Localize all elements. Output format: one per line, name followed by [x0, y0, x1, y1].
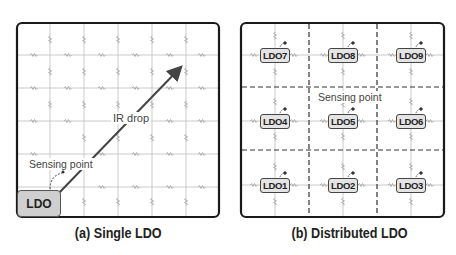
- sensing-point-label-a: Sensing point: [28, 158, 94, 170]
- ir-drop-arrow: [57, 68, 180, 195]
- ldo-6: LDO6: [396, 114, 426, 129]
- ldo-3: LDO3: [396, 178, 426, 193]
- ldo-8: LDO8: [328, 48, 358, 63]
- ldo-4: LDO4: [260, 114, 290, 129]
- ldo-single: LDO: [17, 190, 61, 217]
- ldo-7: LDO7: [260, 48, 290, 63]
- ldo-1: LDO1: [260, 178, 290, 193]
- ldo-2: LDO2: [328, 178, 358, 193]
- sensing-point-label-b: Sensing point: [317, 91, 383, 103]
- ir-drop-label: IR drop: [111, 112, 151, 124]
- ldo-9: LDO9: [396, 48, 426, 63]
- caption-b: (b) Distributed LDO: [291, 225, 407, 241]
- ldo-5: LDO5: [328, 114, 358, 129]
- diagram-canvas: [0, 0, 456, 255]
- caption-a: (a) Single LDO: [75, 225, 162, 241]
